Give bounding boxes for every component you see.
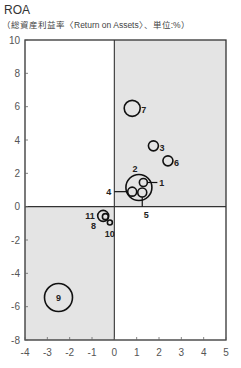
shaded-quadrant-bottom-left [25, 207, 114, 340]
bubble-label-1: 1 [159, 178, 164, 188]
bubble-label-9: 9 [56, 293, 61, 303]
y-tick-label: 10 [9, 35, 21, 46]
bubble-label-2: 2 [132, 164, 137, 174]
x-tick-label: -4 [21, 347, 30, 358]
bubble-label-10: 10 [105, 229, 115, 239]
x-tick-label: -2 [65, 347, 74, 358]
x-tick-label: 3 [179, 347, 185, 358]
y-tick-label: 0 [14, 201, 20, 212]
bubble-label-6: 6 [174, 158, 179, 168]
x-tick-label: 2 [156, 347, 162, 358]
x-tick-label: 5 [223, 347, 229, 358]
y-tick-label: -6 [11, 301, 20, 312]
y-tick-label: 2 [14, 168, 20, 179]
y-tick-label: -4 [11, 268, 20, 279]
y-tick-label: 4 [14, 135, 20, 146]
y-tick-label: -8 [11, 335, 20, 346]
y-tick-label: 8 [14, 68, 20, 79]
y-tick-label: 6 [14, 101, 20, 112]
x-tick-label: 0 [112, 347, 118, 358]
y-tick-label: -2 [11, 235, 20, 246]
bubble-label-3: 3 [159, 143, 164, 153]
x-tick-label: 1 [134, 347, 140, 358]
x-tick-label: -1 [88, 347, 97, 358]
bubble-label-11: 11 [85, 211, 95, 221]
shaded-quadrant-top-right [114, 40, 226, 207]
bubble-label-4: 4 [106, 187, 111, 197]
chart-svg: 1086420-2-4-6-8-4-3-2-1012345 1234567891… [0, 0, 241, 368]
bubble-label-7: 7 [141, 105, 146, 115]
x-tick-label: -3 [43, 347, 52, 358]
bubble-label-8: 8 [91, 221, 96, 231]
x-tick-label: 4 [201, 347, 207, 358]
bubble-label-5: 5 [144, 210, 149, 220]
